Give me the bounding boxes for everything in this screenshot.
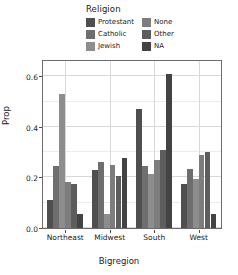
legend-item-na[interactable]: NA (142, 41, 174, 52)
legend-column-2: NoneOtherNA (142, 17, 174, 52)
bar (71, 184, 77, 228)
legend-item-label: Jewish (98, 42, 120, 51)
bar (92, 170, 98, 228)
bar (110, 165, 116, 228)
y-tick-label: 0.2 (26, 174, 38, 183)
legend-item-other[interactable]: Other (142, 29, 174, 40)
x-tick-label: Northeast (47, 233, 84, 242)
legend-swatch-icon (86, 42, 95, 51)
bar (142, 166, 148, 228)
legend-item-none[interactable]: None (142, 17, 174, 28)
bar (154, 160, 160, 228)
legend-item-label: NA (154, 42, 164, 51)
legend-item-label: None (154, 18, 172, 27)
bar-group-midwest (88, 61, 133, 228)
bar (211, 214, 217, 228)
x-tick-mark (154, 230, 155, 233)
legend-swatch-icon (142, 18, 151, 27)
chart-figure: Religion ProtestantCatholicJewishNoneOth… (0, 0, 238, 275)
legend-item-label: Other (154, 30, 174, 39)
bar-group-west (177, 61, 222, 228)
bar (205, 152, 211, 228)
legend-item-jewish[interactable]: Jewish (86, 41, 134, 52)
y-axis-tick-labels: 0.00.20.40.6 (18, 60, 38, 229)
bar (47, 200, 53, 228)
y-tick-label: 0.4 (26, 124, 38, 133)
legend-column-1: ProtestantCatholicJewish (86, 17, 134, 52)
bar (104, 214, 110, 228)
bar (65, 182, 71, 228)
legend-swatch-icon (86, 30, 95, 39)
x-tick-label: South (143, 233, 165, 242)
bar (148, 174, 154, 228)
bar (193, 179, 199, 228)
bar (187, 169, 193, 228)
bar (136, 109, 142, 228)
legend-swatch-icon (142, 42, 151, 51)
bar (122, 158, 128, 228)
x-tick-mark (199, 230, 200, 233)
x-tick-mark (110, 230, 111, 233)
x-tick-label: Midwest (94, 233, 125, 242)
legend: Religion ProtestantCatholicJewishNoneOth… (86, 4, 196, 52)
x-tick-mark (65, 230, 66, 233)
bar (199, 155, 205, 228)
legend-columns: ProtestantCatholicJewishNoneOtherNA (86, 17, 196, 52)
y-tick-label: 0.0 (26, 225, 38, 234)
bar (59, 94, 65, 228)
legend-title: Religion (86, 4, 196, 14)
x-axis-tick-labels: NortheastMidwestSouthWest (42, 233, 222, 247)
legend-item-label: Catholic (98, 30, 126, 39)
legend-item-label: Protestant (98, 18, 134, 27)
bar (181, 184, 187, 228)
legend-swatch-icon (86, 18, 95, 27)
x-tick-label: West (190, 233, 208, 242)
bar (53, 166, 59, 228)
legend-item-catholic[interactable]: Catholic (86, 29, 134, 40)
legend-item-protestant[interactable]: Protestant (86, 17, 134, 28)
bar-group-south (132, 61, 177, 228)
bar (160, 150, 166, 228)
plot-panel (42, 60, 222, 229)
bar-group-northeast (43, 61, 88, 228)
legend-swatch-icon (142, 30, 151, 39)
y-tick-label: 0.6 (26, 73, 38, 82)
bar (77, 214, 83, 228)
y-axis-title: Prop (1, 106, 11, 125)
x-axis-title: Bigregion (0, 256, 238, 266)
bar (166, 74, 172, 228)
bar (98, 162, 104, 228)
bar (116, 176, 122, 228)
